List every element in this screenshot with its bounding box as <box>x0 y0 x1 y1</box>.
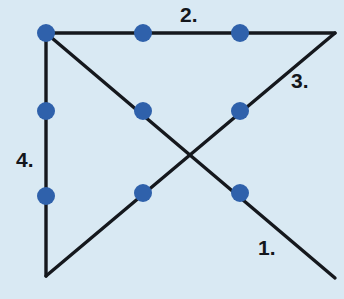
node-top-left-vertex <box>37 24 55 42</box>
node-left-lower <box>37 187 55 205</box>
segment-label-3: 3. <box>291 70 309 91</box>
figure-canvas <box>0 0 344 299</box>
node-center-lower-left <box>134 184 152 202</box>
segment-label-1: 1. <box>258 237 276 258</box>
node-center-upper-left <box>134 102 152 120</box>
segment-label-4: 4. <box>16 149 34 170</box>
node-center-upper-right <box>231 102 249 120</box>
node-top-right-inner <box>231 24 249 42</box>
node-left-upper <box>37 102 55 120</box>
node-center-lower-right <box>231 184 249 202</box>
segment-label-2: 2. <box>180 4 198 25</box>
node-top-middle <box>134 24 152 42</box>
